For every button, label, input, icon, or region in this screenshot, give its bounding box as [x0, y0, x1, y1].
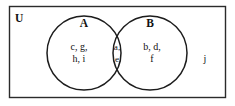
intersection-elements-line2: e: [115, 54, 119, 64]
venn-diagram: U A B c, g, h, i a, e b, d, f j: [0, 0, 235, 106]
set-a-only-elements-line1: c, g,: [71, 41, 88, 52]
set-a-label: A: [80, 17, 89, 29]
set-b-only-elements-line1: b, d,: [143, 41, 161, 52]
intersection-elements-line1: a,: [114, 42, 120, 52]
universal-set-label: U: [15, 12, 24, 24]
set-a-only-elements-line2: h, i: [73, 53, 86, 64]
set-b-label: B: [146, 17, 154, 29]
venn-diagram-canvas: U A B c, g, h, i a, e b, d, f j: [0, 0, 235, 106]
outside-sets-elements: j: [203, 53, 207, 64]
